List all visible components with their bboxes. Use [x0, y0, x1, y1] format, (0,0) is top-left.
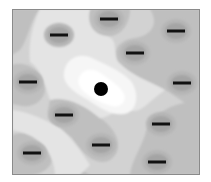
minus-sign-icon: [100, 18, 118, 21]
negative-charge: [142, 150, 172, 174]
minus-sign-icon: [55, 114, 73, 117]
charge-contour-diagram: [0, 0, 211, 182]
negative-charge: [17, 141, 47, 165]
negative-charge: [13, 70, 43, 94]
negative-charge: [86, 133, 116, 157]
minus-sign-icon: [23, 152, 41, 155]
negative-charge: [161, 19, 191, 43]
minus-sign-icon: [167, 30, 185, 33]
negative-charge: [146, 112, 176, 136]
minus-sign-icon: [148, 161, 166, 164]
minus-sign-icon: [126, 52, 144, 55]
minus-sign-icon: [92, 144, 110, 147]
contour-field: [12, 7, 200, 175]
minus-sign-icon: [173, 82, 191, 85]
negative-charge: [44, 23, 74, 47]
positive-ion-dot: [94, 82, 108, 96]
minus-sign-icon: [19, 81, 37, 84]
negative-charge: [94, 7, 124, 31]
negative-charge: [167, 71, 197, 95]
negative-charge: [49, 103, 79, 127]
minus-sign-icon: [50, 34, 68, 37]
minus-sign-icon: [152, 123, 170, 126]
negative-charge: [120, 41, 150, 65]
